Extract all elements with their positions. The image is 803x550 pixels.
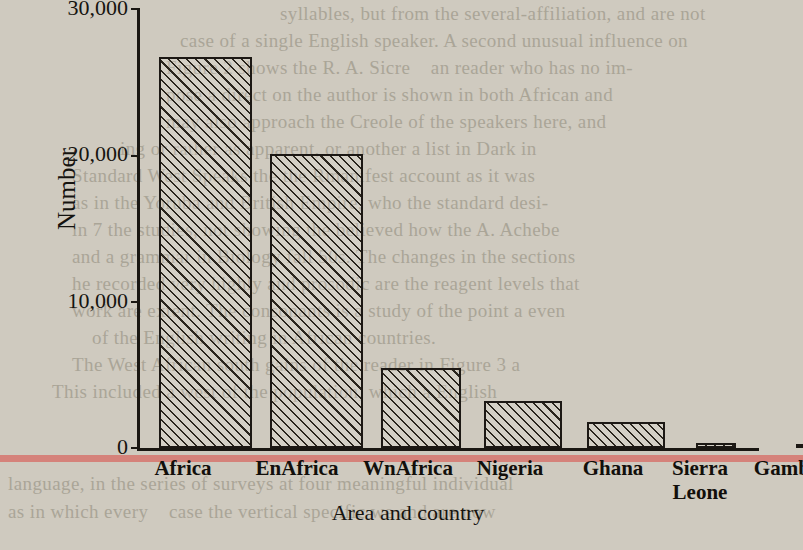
bar-africa [159,57,252,448]
bar-enafrica [270,154,363,448]
bar-wnafrica [381,368,461,448]
bar-gambia [796,444,803,448]
bar-ghana [587,422,665,448]
x-tick-label-sierra-leone: SierraLeone [650,456,750,504]
x-axis-line [137,448,759,451]
bars-container [140,8,759,448]
x-tick-label-enafrica: EnAfrica [237,456,357,481]
y-tick-mark [131,301,140,303]
y-tick-label-20000: 20,000 [68,141,129,167]
y-tick-label-10000: 10,000 [68,288,129,314]
y-tick-mark [131,447,140,449]
x-tick-label-wnafrica: WnAfrica [348,456,468,481]
y-tick-label-30000: 30,000 [68,0,129,21]
bar-nigeria [484,401,562,448]
x-tick-label-africa: Africa [128,456,238,481]
x-tick-label-gambia: Gambia [740,456,803,481]
y-tick-mark [131,155,140,157]
x-tick-label-nigeria: Nigeria [455,456,565,481]
bar-chart: Number 30,000 20,000 10,000 0 [0,0,803,550]
x-axis-label: Area and country [228,500,588,526]
scanned-page: syllables, but from the several-affiliat… [0,0,803,550]
y-tick-mark [131,8,140,10]
bar-sierra-leone [696,443,736,448]
